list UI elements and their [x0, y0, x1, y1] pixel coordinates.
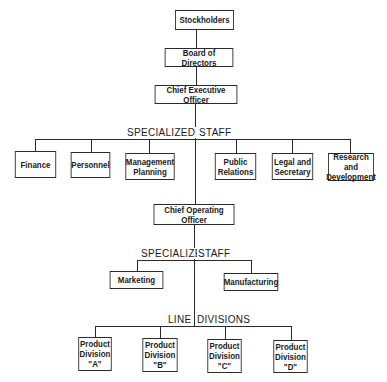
personnel-box: Personnel: [71, 152, 111, 178]
stem-personnel: [91, 139, 92, 152]
product-division-d-label: Product Division "D": [275, 342, 306, 372]
manufacturing-box: Manufacturing: [224, 273, 279, 291]
stockholders-box: Stockholders: [175, 10, 234, 30]
spine-board-ceo: [196, 67, 197, 85]
stem-division-c: [225, 326, 226, 339]
stem-manufacturing: [251, 260, 252, 273]
stem-division-a: [95, 326, 96, 337]
finance-label: Finance: [21, 160, 51, 170]
stem-division-b: [160, 326, 161, 338]
research-development-label: Research and Development: [326, 152, 376, 182]
spine-stockholders-board: [196, 30, 197, 48]
stem-public-relations: [236, 140, 237, 153]
legal-secretary-box: Legal and Secretary: [272, 153, 313, 180]
management-planning-label: Management Planning: [126, 157, 174, 177]
board-label: Board of Directors: [166, 48, 233, 68]
line-divisions-label-right: DIVISIONS: [196, 314, 251, 325]
staff-2-connector: [137, 260, 252, 261]
line-divisions-connector: [95, 326, 292, 327]
product-division-d-box: Product Division "D": [273, 340, 307, 373]
public-relations-label: Public Relations: [218, 157, 254, 177]
ceo-label: Chief Executive Officer: [156, 85, 237, 105]
research-development-box: Research and Development: [328, 153, 374, 181]
ceo-box: Chief Executive Officer: [155, 85, 238, 104]
spine-coo-divisions: [194, 225, 195, 326]
marketing-label: Marketing: [118, 275, 155, 285]
product-division-a-box: Product Division "A": [78, 337, 111, 371]
coo-box: Chief Operating Officer: [154, 204, 235, 225]
manufacturing-label: Manufacturing: [224, 277, 279, 287]
product-division-b-label: Product Division "B": [145, 340, 176, 370]
stem-mgmt-planning: [149, 139, 150, 153]
product-division-c-box: Product Division "C": [207, 339, 241, 373]
stem-marketing: [137, 260, 138, 271]
coo-label: Chief Operating Officer: [154, 205, 233, 225]
stockholders-label: Stockholders: [179, 15, 229, 25]
product-division-c-label: Product Division "C": [209, 341, 240, 371]
product-division-a-label: Product Division "A": [80, 339, 111, 369]
management-planning-box: Management Planning: [125, 153, 174, 180]
stem-finance: [35, 139, 36, 151]
staff-1-label-right: STAFF: [198, 127, 232, 138]
staff-2-label-right: STAFF: [197, 248, 231, 259]
public-relations-box: Public Relations: [215, 153, 256, 180]
board-of-directors-box: Board of Directors: [165, 48, 234, 67]
staff-1-label-left: SPECIALIZED: [126, 127, 196, 138]
staff-1-connector: [35, 139, 351, 140]
stem-division-d: [291, 326, 292, 340]
marketing-box: Marketing: [110, 271, 164, 289]
personnel-label: Personnel: [71, 160, 109, 170]
product-division-b-box: Product Division "B": [142, 338, 177, 372]
finance-box: Finance: [15, 151, 56, 178]
stem-legal: [292, 140, 293, 153]
line-divisions-label-left: LINE: [167, 314, 192, 325]
spine-ceo-coo: [195, 104, 196, 204]
legal-secretary-label: Legal and Secretary: [274, 157, 311, 177]
